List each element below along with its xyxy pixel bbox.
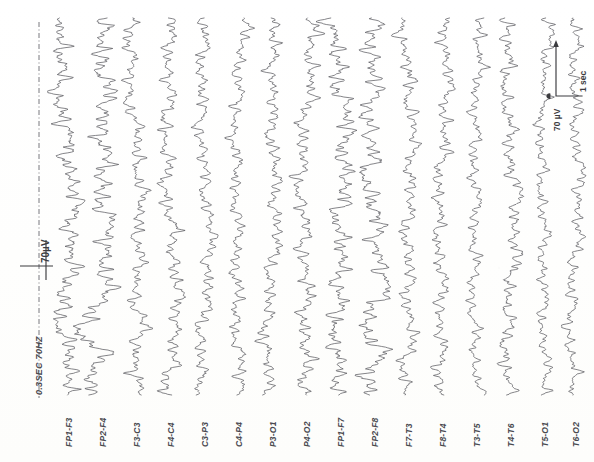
eeg-trace <box>73 18 121 395</box>
channel-label-t6-o2: T6-O2 <box>571 422 581 447</box>
channel-label-fp1-f7: FP1-F7 <box>336 417 346 447</box>
eeg-trace <box>431 18 456 395</box>
channel-label-f7-t3: F7-T3 <box>404 423 414 447</box>
left-calibration-label: 70µV <box>40 239 51 263</box>
eeg-trace <box>121 18 153 395</box>
eeg-trace <box>255 18 283 395</box>
channel-label-t4-t6: T4-T6 <box>506 423 516 447</box>
scale-bar-cap-time <box>553 40 559 47</box>
eeg-trace-canvas <box>0 0 594 462</box>
scale-bar-cap-amplitude <box>546 93 550 99</box>
eeg-trace <box>466 18 491 395</box>
channel-label-t3-t5: T3-T5 <box>472 423 482 447</box>
eeg-trace <box>47 18 84 395</box>
eeg-trace <box>191 18 218 395</box>
channel-label-fp2-f8: FP2-F8 <box>370 417 380 447</box>
channel-label-p4-o2: P4-O2 <box>302 421 312 447</box>
channel-label-f3-c3: F3-C3 <box>132 422 142 447</box>
channel-label-f4-c4: F4-C4 <box>166 422 176 447</box>
eeg-trace <box>497 18 524 395</box>
channel-label-p3-o1: P3-O1 <box>268 421 278 447</box>
channel-label-t5-o1: T5-O1 <box>540 422 550 447</box>
eeg-recording-page: FP1-F3FP2-F4F3-C3F4-C4C3-P3C4-P4P3-O1P4-… <box>0 0 594 462</box>
scale-bar-amplitude-label: 70 µV <box>552 109 562 131</box>
eeg-trace <box>533 18 556 395</box>
eeg-trace <box>289 18 325 395</box>
channel-label-c3-p3: C3-P3 <box>200 422 210 447</box>
channel-label-fp1-f3: FP1-F3 <box>64 417 74 447</box>
channel-label-c4-p4: C4-P4 <box>234 422 244 447</box>
scale-bar-time-label: 1 sec <box>578 71 588 92</box>
filter-settings-label: 0.3SEC 70HZ <box>34 336 44 395</box>
eeg-trace <box>225 18 255 395</box>
eeg-trace <box>316 18 357 395</box>
channel-label-fp2-f4: FP2-F4 <box>98 417 108 447</box>
channel-label-f8-t4: F8-T4 <box>438 423 448 447</box>
eeg-trace <box>355 18 393 395</box>
eeg-trace-group <box>47 18 585 395</box>
eeg-trace <box>157 18 186 395</box>
eeg-trace <box>391 18 421 395</box>
